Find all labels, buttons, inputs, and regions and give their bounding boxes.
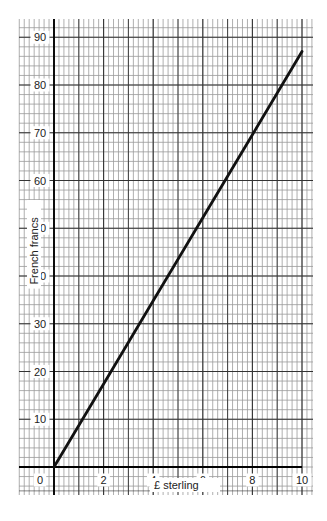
x-axis-title: £ sterling xyxy=(154,479,199,491)
y-tick-label: 70 xyxy=(34,127,46,139)
y-tick-label: 30 xyxy=(34,318,46,330)
y-tick-label: 20 xyxy=(34,366,46,378)
x-tick-label: 10 xyxy=(296,474,308,486)
y-tick-label: 10 xyxy=(34,413,46,425)
grid-minor xyxy=(19,19,313,495)
tick-labels: 0246810102030405060708090 xyxy=(31,31,312,487)
y-axis-title: French francs xyxy=(28,217,40,285)
x-tick-label: 0 xyxy=(37,474,43,486)
y-tick-label: 80 xyxy=(34,79,46,91)
x-tick-label: 8 xyxy=(249,474,255,486)
x-tick-label: 2 xyxy=(101,474,107,486)
conversion-chart: 0246810102030405060708090 £ sterlingFren… xyxy=(0,0,327,521)
y-tick-label: 90 xyxy=(34,31,46,43)
y-tick-label: 60 xyxy=(34,175,46,187)
